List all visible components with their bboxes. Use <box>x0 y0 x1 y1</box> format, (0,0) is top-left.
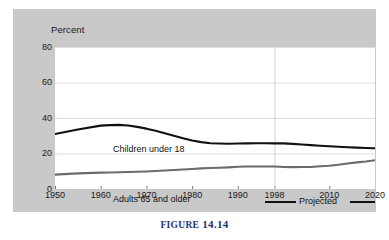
series-line-adults-65-and-older <box>55 160 375 174</box>
series-label-children-under-18: Children under 18 <box>113 145 185 154</box>
x-tick-label-1980: 1980 <box>182 191 202 200</box>
legend-item-projected: Projected <box>299 196 337 206</box>
x-tick-label-1960: 1960 <box>91 191 111 200</box>
chart-panel: Percent 020406080 Children under 18 Adul… <box>13 9 376 212</box>
series-line-children-under-18 <box>55 125 375 148</box>
legend-rule-right-icon <box>350 201 375 203</box>
y-tick-label-80: 80 <box>16 43 52 52</box>
x-tick-label-1950: 1950 <box>45 191 65 200</box>
figure-caption: Figure 14.14 <box>0 218 389 230</box>
caption-word: Figure <box>160 220 199 230</box>
figure-page: Percent 020406080 Children under 18 Adul… <box>0 0 389 240</box>
x-tick-label-1990: 1990 <box>228 191 248 200</box>
plot-area: Children under 18 Adults 65 and older <box>55 47 375 189</box>
y-axis-tick-labels: 020406080 <box>13 9 52 212</box>
x-tick-label-1970: 1970 <box>136 191 156 200</box>
series-lines <box>55 125 375 175</box>
y-tick-label-20: 20 <box>16 149 52 158</box>
y-tick-label-40: 40 <box>16 114 52 123</box>
y-tick-label-60: 60 <box>16 78 52 87</box>
legend-rule-left-icon <box>265 201 296 203</box>
chart-svg <box>55 47 375 189</box>
y-axis-title: Percent <box>51 24 84 35</box>
chart-legend: Projected <box>265 195 375 209</box>
caption-number: 14.14 <box>202 218 228 230</box>
